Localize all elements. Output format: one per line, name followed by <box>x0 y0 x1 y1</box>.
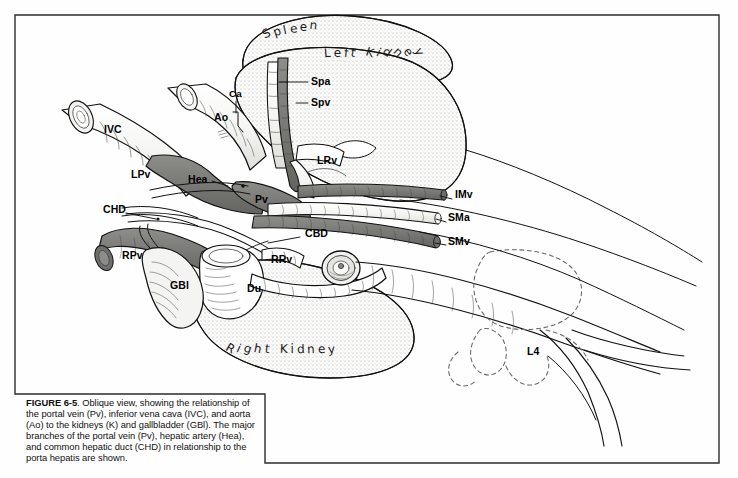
label-cbd: CBD <box>305 228 328 239</box>
label-ao: Ao <box>214 112 228 123</box>
label-du: Du <box>247 283 261 294</box>
label-rpv: RPv <box>122 250 143 261</box>
label-lpv: LPv <box>131 169 151 180</box>
label-spv: Spv <box>311 97 331 108</box>
label-gbl: GBl <box>170 280 189 291</box>
figure-caption-lead: FIGURE 6-5 <box>26 397 77 408</box>
right-kidney-organ-label: RightKidney <box>226 342 339 356</box>
label-smv: SMv <box>448 236 470 247</box>
label-pv: Pv <box>255 194 268 205</box>
label-lrv: LRv <box>317 155 337 166</box>
label-chd: CHD <box>103 204 126 215</box>
label-ca: Ca <box>229 89 242 99</box>
label-ivc: IVC <box>104 124 122 135</box>
label-rrv: RRv <box>271 254 292 265</box>
label-l4: L4 <box>527 346 539 357</box>
left-kidney-organ-label: LeftKidney <box>324 46 425 60</box>
figure-page: Spleen LeftKidney RightKidney IVC Ao Ca … <box>0 0 738 478</box>
figure-caption: FIGURE 6-5. Oblique view, showing the re… <box>26 398 258 463</box>
ivc-cross-section <box>322 251 360 285</box>
l4-vertebra <box>449 250 588 386</box>
label-sma: SMa <box>448 212 470 223</box>
label-hea: Hea <box>188 174 208 185</box>
label-imv: IMv <box>455 189 473 200</box>
label-spa: Spa <box>311 76 331 87</box>
